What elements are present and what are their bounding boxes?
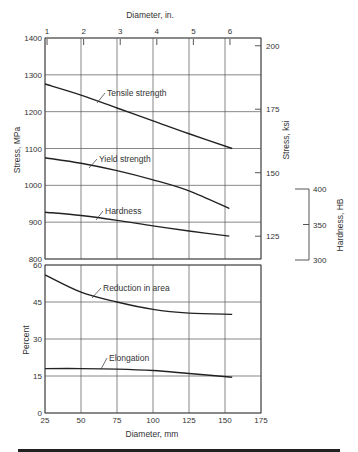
y-percent-tick-label: 30	[33, 335, 42, 344]
tensile-strength-label: Tensile strength	[107, 88, 167, 98]
y-percent-tick-label: 0	[38, 409, 43, 418]
elongation-label: Elongation	[109, 353, 149, 363]
x-inch-tick-label: 5	[191, 27, 196, 36]
y-ksi-tick-label: 175	[266, 105, 280, 114]
x-inch-tick-label: 1	[45, 27, 50, 36]
y-percent-label: Percent	[21, 325, 31, 355]
y-ksi-tick-label: 125	[266, 232, 280, 241]
axes: 2550751001251501758009001000110012001300…	[24, 27, 327, 425]
x-tick-label: 75	[113, 416, 122, 425]
x-tick-label: 175	[254, 416, 268, 425]
x-tick-label: 125	[182, 416, 196, 425]
y-hardness-tick-label: 300	[313, 256, 327, 265]
x-tick-label: 50	[77, 416, 86, 425]
mechanical-properties-chart: 2550751001251501758009001000110012001300…	[0, 0, 358, 452]
reduction-in-area-line	[45, 275, 232, 314]
series: Tensile strengthYield strengthHardnessRe…	[45, 84, 232, 377]
x-top-axis-label: Diameter, in.	[126, 10, 174, 20]
reduction-in-area-label: Reduction in area	[103, 283, 170, 293]
x-inch-tick-label: 2	[81, 27, 86, 36]
y-stress-ksi-label: Stress, ksi	[281, 120, 291, 159]
y-mpa-tick-label: 1300	[24, 71, 42, 80]
x-inch-tick-label: 3	[118, 27, 123, 36]
x-tick-label: 100	[146, 416, 160, 425]
x-bottom-axis-label: Diameter, mm	[126, 429, 179, 439]
y-mpa-tick-label: 1400	[24, 34, 42, 43]
y-hardness-tick-label: 350	[313, 221, 327, 230]
y-mpa-tick-label: 1200	[24, 108, 42, 117]
x-tick-label: 150	[218, 416, 232, 425]
y-mpa-tick-label: 1000	[24, 181, 42, 190]
x-inch-tick-label: 4	[155, 27, 160, 36]
y-percent-tick-label: 15	[33, 372, 42, 381]
y-mpa-tick-label: 1100	[25, 145, 43, 154]
y-percent-tick-label: 45	[33, 298, 42, 307]
y-mpa-tick-label: 900	[29, 218, 43, 227]
x-inch-tick-label: 6	[228, 27, 233, 36]
labels: Diameter, in. Diameter, mm Stress, MPa S…	[12, 10, 345, 439]
hardness-label: Hardness	[105, 206, 141, 216]
y-hardness-tick-label: 400	[313, 185, 327, 194]
y-ksi-tick-label: 150	[266, 169, 280, 178]
y-stress-mpa-label: Stress, MPa	[12, 127, 22, 174]
y-ksi-tick-label: 200	[266, 42, 280, 51]
y-hardness-label: Hardness, HB	[335, 198, 345, 251]
yield-strength-label: Yield strength	[99, 154, 151, 164]
yield-strength-line	[45, 158, 229, 209]
y-percent-tick-label: 60	[33, 261, 42, 270]
